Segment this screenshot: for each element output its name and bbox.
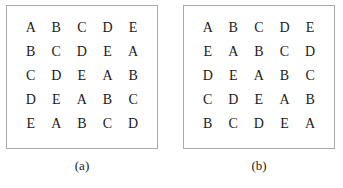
grid-cell: B [272,64,298,88]
grid-cell: E [272,112,298,136]
grid-cell: B [246,40,272,64]
grid-cell: A [95,64,121,88]
latin-square-grid-a: A B C D E B C D E A C D E A B D E A B C … [7,16,157,136]
grid-cell: D [195,64,221,88]
grid-cell: C [221,112,247,136]
grid-cell: D [272,16,298,40]
grid-cell: C [246,16,272,40]
grid-cell: A [18,16,44,40]
latin-square-grid-b: A B C D E E A B C D D E A B C C D E A B … [184,16,334,136]
grid-cell: B [44,16,70,40]
grid-cell: B [120,64,146,88]
grid-cell: D [44,64,70,88]
grid-cell: E [95,40,121,64]
grid-cell: C [95,112,121,136]
grid-cell: C [297,64,323,88]
grid-cell: E [246,88,272,112]
grid-cell: D [69,40,95,64]
grid-cell: B [69,112,95,136]
grid-cell: E [69,64,95,88]
grid-cell: D [120,112,146,136]
grid-cell: B [221,16,247,40]
grid-cell: C [44,40,70,64]
grid-cell: B [195,112,221,136]
grid-cell: B [297,88,323,112]
panel-caption-b: (b) [183,158,335,174]
grid-cell: A [297,112,323,136]
grid-cell: D [221,88,247,112]
grid-cell: B [95,88,121,112]
grid-cell: C [69,16,95,40]
grid-cell: A [221,40,247,64]
grid-cell: E [221,64,247,88]
panel-caption-a: (a) [6,158,158,174]
grid-cell: A [195,16,221,40]
grid-cell: E [195,40,221,64]
grid-cell: A [120,40,146,64]
grid-cell: A [44,112,70,136]
grid-cell: E [297,16,323,40]
grid-cell: D [246,112,272,136]
grid-cell: A [246,64,272,88]
grid-cell: D [297,40,323,64]
grid-cell: C [272,40,298,64]
latin-square-panel-b: A B C D E E A B C D D E A B C C D E A B … [183,5,335,149]
grid-cell: E [18,112,44,136]
grid-cell: A [69,88,95,112]
grid-cell: C [120,88,146,112]
grid-cell: D [95,16,121,40]
figure-root: A B C D E B C D E A C D E A B D E A B C … [0,0,343,188]
grid-cell: C [195,88,221,112]
grid-cell: B [18,40,44,64]
grid-cell: C [18,64,44,88]
grid-cell: A [272,88,298,112]
latin-square-panel-a: A B C D E B C D E A C D E A B D E A B C … [6,5,158,149]
grid-cell: E [120,16,146,40]
grid-cell: D [18,88,44,112]
grid-cell: E [44,88,70,112]
